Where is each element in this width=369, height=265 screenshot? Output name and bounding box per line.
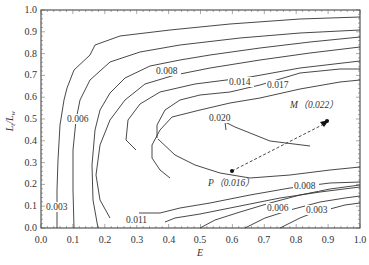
x-tick: 0.0 [35, 234, 48, 245]
contour-label: 0.008 [156, 66, 178, 76]
y-tick: 0.6 [25, 91, 38, 102]
x-tick: 0.9 [322, 234, 335, 245]
svg-text:Lt/Lw: Lt/Lw [4, 110, 17, 132]
contour-0.006 [73, 30, 360, 228]
y-tick: 0.3 [25, 157, 38, 168]
contour-label: 0.006 [267, 203, 289, 213]
contour-label: 0.017 [267, 80, 289, 90]
point-M-label: M（0.022） [289, 99, 339, 110]
y-label-div: /L [4, 115, 15, 125]
y-tick: 0.2 [25, 178, 38, 189]
x-axis-label: E [196, 247, 203, 258]
x-tick: 0.6 [226, 234, 239, 245]
y-tick: 0.8 [25, 48, 38, 59]
contour-chart: 0.0 0.1 0.2 0.3 0.4 0.5 0.6 0.7 0.8 0.9 … [0, 0, 369, 265]
contour-labels: 0.003 0.006 0.008 0.014 0.017 0.020 0.01… [45, 66, 331, 225]
contour-0.020 [152, 80, 360, 178]
point-P-label: P（0.016） [207, 177, 255, 188]
y-label-sub2: w [9, 110, 17, 115]
x-tick: 1.0 [354, 234, 367, 245]
contour-label: 0.003 [306, 205, 328, 215]
point-P-marker [230, 169, 234, 173]
x-tick: 0.8 [290, 234, 303, 245]
x-tick-labels: 0.0 0.1 0.2 0.3 0.4 0.5 0.6 0.7 0.8 0.9 … [35, 234, 367, 245]
y-tick: 0.7 [25, 69, 38, 80]
x-tick: 0.1 [67, 234, 80, 245]
point-M-marker [325, 119, 329, 123]
contour-label: 0.020 [209, 113, 231, 123]
x-tick: 0.3 [131, 234, 144, 245]
contour-0.006-lower [245, 196, 360, 228]
contour-label: 0.011 [126, 215, 147, 225]
y-tick: 1.0 [25, 4, 38, 15]
x-tick: 0.4 [163, 234, 176, 245]
contour-label: 0.008 [294, 181, 316, 191]
y-tick: 0.5 [25, 113, 38, 124]
contour-label: 0.014 [229, 77, 251, 87]
y-axis-label: Lt/Lw [4, 110, 17, 132]
x-tick: 0.5 [194, 234, 207, 245]
y-tick: 0.9 [25, 26, 38, 37]
x-tick: 0.7 [258, 234, 271, 245]
x-tick: 0.2 [99, 234, 112, 245]
y-tick: 0.1 [25, 200, 38, 211]
contour-label: 0.006 [67, 114, 89, 124]
y-tick: 0.4 [25, 135, 38, 146]
contour-label: 0.003 [46, 202, 68, 212]
y-tick: 0.0 [25, 222, 38, 233]
y-tick-labels: 0.0 0.1 0.2 0.3 0.4 0.5 0.6 0.7 0.8 0.9 … [25, 4, 38, 233]
